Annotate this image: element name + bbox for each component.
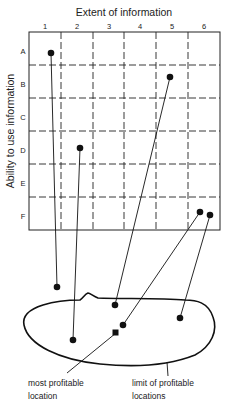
column-label-2: 2	[75, 22, 79, 31]
row-label-f: F	[21, 212, 26, 221]
y-axis-label: Ability to use information	[4, 74, 16, 189]
dot-f6b	[207, 212, 214, 219]
profitable-area-outline	[24, 293, 215, 366]
most-profitable-label-line2: location	[28, 391, 58, 401]
location-dot-outside	[54, 284, 61, 291]
location-dot-b5	[112, 302, 119, 309]
dot-d2	[77, 145, 84, 152]
column-label-4: 4	[138, 22, 142, 31]
row-label-c: C	[20, 113, 26, 122]
annotations: most profitable location limit of profit…	[28, 378, 194, 401]
limit-label-line1: limit of profitable	[132, 378, 194, 388]
row-label-d: D	[20, 146, 26, 155]
connector-lines	[51, 53, 210, 376]
column-label-1: 1	[43, 22, 47, 31]
row-label-a: A	[20, 47, 25, 56]
most-profitable-label-line1: most profitable	[28, 378, 84, 388]
connector-b5	[115, 77, 170, 305]
location-dot-f6b	[177, 315, 184, 322]
dot-f6a	[197, 209, 204, 216]
connector-a1	[51, 53, 57, 287]
connector-f6a	[123, 212, 200, 325]
column-labels: 1 2 3 4 5 6	[43, 22, 206, 31]
dot-b5	[167, 74, 174, 81]
limit-label-line2: locations	[132, 391, 166, 401]
column-label-3: 3	[107, 22, 111, 31]
grid-dots	[48, 50, 214, 219]
grid	[29, 32, 220, 230]
location-dot-f6a	[120, 322, 127, 329]
column-label-5: 5	[170, 22, 174, 31]
most-profitable-square	[113, 330, 119, 336]
connector-d2	[73, 148, 80, 340]
dot-a1	[48, 50, 55, 57]
row-labels: A B C D E F	[20, 47, 26, 221]
diagram-title: Extent of information	[76, 6, 172, 18]
information-location-diagram: Extent of information 1 2 3 4 5 6 A B C …	[0, 0, 237, 409]
limit-leader	[167, 362, 168, 376]
location-dot-d2	[70, 337, 77, 344]
row-label-b: B	[20, 80, 25, 89]
row-label-e: E	[20, 179, 25, 188]
column-label-6: 6	[202, 22, 206, 31]
